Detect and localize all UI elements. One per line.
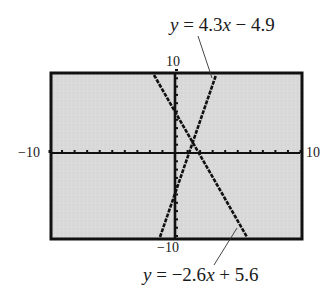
y-min-label: −10 — [157, 241, 179, 255]
graphing-calculator-plot — [0, 0, 333, 300]
eq2-x: x — [206, 264, 214, 285]
equation-label-line-1: y = 4.3x − 4.9 — [170, 15, 275, 34]
calculator-screen — [51, 73, 302, 239]
eq2-const: + 5.6 — [215, 264, 259, 285]
eq2-coef: = −2.6 — [151, 264, 206, 285]
y-max-label: 10 — [166, 55, 180, 69]
eq1-coef: = 4.3 — [178, 14, 222, 35]
x-max-label: 10 — [306, 146, 320, 160]
eq1-x: x — [222, 14, 230, 35]
x-min-label: −10 — [18, 146, 40, 160]
equation-label-line-2: y = −2.6x + 5.6 — [143, 265, 259, 284]
eq1-const: − 4.9 — [231, 14, 275, 35]
